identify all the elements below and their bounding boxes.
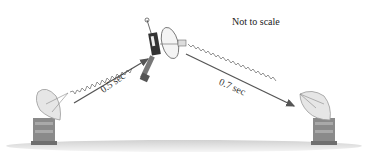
left-antenna-icon [31, 89, 68, 145]
right-antenna-icon [300, 91, 337, 145]
arrow-right [186, 54, 294, 106]
ground [6, 140, 362, 152]
diagram-graphics [0, 0, 368, 157]
diagram-canvas: Not to scale 0.5 sec 0.7 sec [0, 0, 368, 157]
spacecraft-icon [140, 18, 186, 82]
not-to-scale-note: Not to scale [232, 16, 280, 27]
